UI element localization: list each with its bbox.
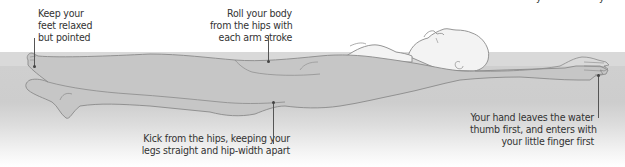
leader-dot-hand (597, 74, 600, 77)
swimmer-body (26, 53, 609, 118)
annotation-kick: Kick from the hips, keeping your legs st… (136, 132, 290, 156)
cutoff-text-fragment: y (599, 0, 605, 3)
annotation-roll: Roll your body from the hips with each a… (210, 7, 292, 43)
leader-dot-kick (272, 101, 275, 104)
annotation-hand: Your hand leaves the water thumb first, … (470, 111, 594, 147)
cutoff-text-fragment: y (536, 0, 542, 3)
cutoff-text-fragment: · (488, 0, 491, 3)
leader-line-feet (34, 38, 35, 66)
backstroke-diagram: · y y Keep your feet relaxed but pointed… (0, 0, 625, 167)
leader-dot-feet (33, 65, 36, 68)
leader-line-kick (273, 102, 274, 144)
annotation-feet: Keep your feet relaxed but pointed (38, 7, 92, 43)
leader-dot-roll (267, 60, 270, 63)
leader-line-hand (598, 74, 599, 118)
leader-line-roll (268, 36, 269, 62)
